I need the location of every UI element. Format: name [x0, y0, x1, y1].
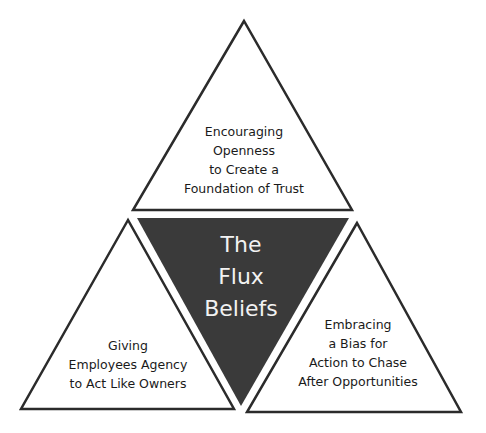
top-label-line: Encouraging [164, 122, 324, 141]
left-triangle-label: Giving Employees Agency to Act Like Owne… [48, 336, 208, 393]
left-label-line: to Act Like Owners [48, 374, 208, 393]
right-label-line: a Bias for [278, 334, 438, 353]
center-title-line: The [191, 229, 291, 261]
right-triangle-label: Embracing a Bias for Action to Chase Aft… [278, 315, 438, 391]
left-label-line: Giving [48, 336, 208, 355]
top-label-line: Foundation of Trust [164, 179, 324, 198]
center-title-line: Flux [191, 261, 291, 293]
top-label-line: to Create a [164, 160, 324, 179]
center-title: The Flux Beliefs [191, 229, 291, 325]
right-label-line: After Opportunities [278, 372, 438, 391]
right-label-line: Embracing [278, 315, 438, 334]
top-triangle-label: Encouraging Openness to Create a Foundat… [164, 122, 324, 198]
right-label-line: Action to Chase [278, 353, 438, 372]
center-title-line: Beliefs [191, 293, 291, 325]
flux-beliefs-diagram: Encouraging Openness to Create a Foundat… [0, 0, 486, 433]
top-label-line: Openness [164, 141, 324, 160]
left-label-line: Employees Agency [48, 355, 208, 374]
